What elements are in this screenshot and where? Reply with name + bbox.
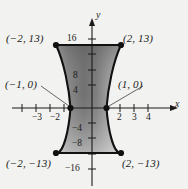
- y-tick-label-neg16: −16: [65, 164, 80, 174]
- point-neg2-13: [53, 42, 59, 48]
- point-label-bottom-left: (−2, −13): [6, 158, 51, 169]
- x-tick-label-2: 2: [117, 113, 122, 123]
- point-2-neg13: [118, 150, 124, 156]
- leader-line-left: [41, 86, 69, 106]
- point-label-top-right: (2, 13): [123, 33, 153, 44]
- y-tick-label-4: 4: [73, 86, 78, 96]
- x-tick-label-3: 3: [132, 113, 137, 123]
- point-label-mid-left: (−1, 0): [5, 79, 37, 90]
- x-tick-label-4: 4: [146, 113, 151, 123]
- point-label-top-left: (−2, 13): [6, 33, 44, 44]
- y-tick-label-8: 8: [73, 71, 78, 81]
- graph-figure: y x 16 8 4 −4 −8 −16 −3 −2 2 3 4 (−2, 13…: [0, 0, 188, 189]
- y-tick-label-neg4: −4: [72, 124, 82, 134]
- point-neg2-neg13: [53, 150, 59, 156]
- point-label-mid-right: (1, 0): [118, 79, 142, 90]
- point-label-bottom-right: (2, −13): [122, 158, 160, 169]
- x-tick-label-neg2: −2: [50, 113, 60, 123]
- point-1-0: [103, 105, 109, 111]
- y-axis-label: y: [96, 10, 100, 20]
- x-tick-label-neg3: −3: [32, 113, 42, 123]
- x-axis-label: x: [175, 99, 179, 109]
- point-neg1-0: [67, 105, 73, 111]
- y-tick-label-16: 16: [67, 34, 77, 44]
- y-tick-label-neg8: −8: [72, 139, 82, 149]
